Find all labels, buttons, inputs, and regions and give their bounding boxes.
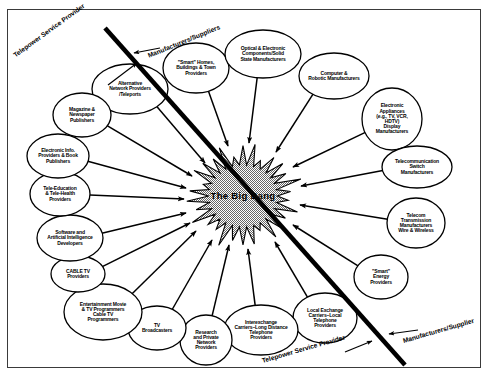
ellipse-electronic-info-book-publishers — [27, 134, 89, 178]
connector-smart-homes-buildings-towns — [208, 91, 228, 146]
connector-telecommunication-switch-manufacturers — [301, 170, 383, 186]
connector-optical-electronic-components — [249, 78, 257, 144]
ellipse-smart-energy-providers — [354, 255, 408, 299]
diagram-artwork — [0, 0, 490, 378]
connector-telecom-transmission-manufacturers — [300, 205, 388, 219]
connector-smart-energy-providers — [293, 225, 358, 266]
connector-electronic-info-book-publishers — [88, 161, 186, 188]
ellipse-cable-tv-providers — [51, 256, 105, 292]
ellipse-magazine-newspaper-publishers — [53, 93, 111, 137]
ellipse-optical-electronic-components — [225, 30, 301, 78]
ellipse-telecommunication-switch-manufacturers — [382, 146, 452, 188]
ellipse-software-ai-developers — [37, 215, 103, 261]
ellipse-interexchange-carriers — [224, 305, 298, 355]
ellipse-electronic-appliances-display — [362, 88, 422, 150]
connector-electronic-appliances-display — [293, 132, 365, 167]
pointer-telepower-bottom — [345, 341, 372, 352]
connector-tv-broadcasters — [172, 240, 212, 310]
connector-interexchange-carriers — [248, 249, 255, 306]
ellipse-computer-robotic-manufacturers — [299, 53, 369, 99]
connector-software-ai-developers — [102, 213, 186, 233]
connector-tele-education-tele-health — [90, 195, 184, 199]
ellipse-telecom-transmission-manufacturers — [387, 198, 445, 248]
diagram-canvas: Alternative Network Providers /Teleports… — [0, 0, 490, 378]
connector-research-private-network-providers — [212, 245, 229, 316]
ellipse-smart-homes-buildings-towns — [163, 43, 229, 93]
ellipse-research-private-network-providers — [180, 315, 232, 365]
connector-computer-robotic-manufacturers — [276, 94, 313, 152]
big-bang-label: The Big Bang — [207, 190, 279, 201]
